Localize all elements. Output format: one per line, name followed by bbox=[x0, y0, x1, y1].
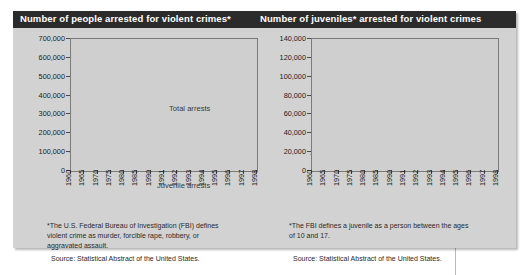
figure-card: Number of people arrested for violent cr… bbox=[13, 11, 516, 248]
r-x-tick-label: 1993 bbox=[425, 170, 434, 186]
r-x-tick-label: 1985 bbox=[371, 170, 380, 186]
l-y-tick-mark bbox=[66, 113, 70, 114]
r-x-tick-label: 1997 bbox=[478, 170, 487, 186]
l-x-tick-label: 1997 bbox=[237, 170, 246, 186]
r-x-tick-label: 1991 bbox=[398, 170, 407, 186]
l-x-tick-label: 1965 bbox=[77, 170, 86, 186]
l-y-tick-label: 100,000 bbox=[25, 147, 65, 156]
l-x-tick-label: 1995 bbox=[210, 170, 219, 186]
r-y-tick-label: 120,000 bbox=[266, 53, 306, 62]
r-x-tick-label: 1980 bbox=[358, 170, 367, 186]
r-y-tick-mark bbox=[307, 132, 311, 133]
l-y-tick-mark bbox=[66, 132, 70, 133]
r-y-tick-label: 60,000 bbox=[266, 109, 306, 118]
l-x-tick-label: 1975 bbox=[104, 170, 113, 186]
r-x-tick-label: 1975 bbox=[345, 170, 354, 186]
left-series-label-total: Total arrests bbox=[169, 104, 210, 113]
r-y-tick-mark bbox=[307, 57, 311, 58]
l-y-tick-label: 600,000 bbox=[25, 53, 65, 62]
r-y-tick-label: 100,000 bbox=[266, 72, 306, 81]
l-y-tick-label: 500,000 bbox=[25, 72, 65, 81]
r-x-tick-label: 1994 bbox=[438, 170, 447, 186]
l-y-tick-label: 400,000 bbox=[25, 91, 65, 100]
r-x-tick-label: 1960 bbox=[305, 170, 314, 186]
left-source: Source: Statistical Abstract of the Unit… bbox=[51, 255, 200, 262]
l-y-tick-mark bbox=[66, 95, 70, 96]
l-y-tick-label: 200,000 bbox=[25, 128, 65, 137]
r-x-tick-label: 1970 bbox=[332, 170, 341, 186]
r-y-tick-label: 0 bbox=[266, 166, 306, 175]
right-source: Source: Statistical Abstract of the Unit… bbox=[293, 255, 442, 262]
l-x-tick-label: 1998 bbox=[250, 170, 259, 186]
l-y-tick-label: 0 bbox=[25, 166, 65, 175]
right-footnote: *The FBI defines a juvenile as a person … bbox=[289, 221, 504, 241]
page-fold-line bbox=[455, 248, 456, 275]
r-y-tick-mark bbox=[307, 151, 311, 152]
r-y-tick-label: 40,000 bbox=[266, 128, 306, 137]
left-series-label-juvenile: Juvenile arrests bbox=[157, 181, 210, 190]
l-y-tick-label: 700,000 bbox=[25, 34, 65, 43]
r-x-tick-label: 1965 bbox=[318, 170, 327, 186]
left-footnote: *The U.S. Federal Bureau of Investigatio… bbox=[47, 221, 257, 251]
r-y-tick-mark bbox=[307, 76, 311, 77]
l-y-tick-mark bbox=[66, 151, 70, 152]
left-plot-frame bbox=[70, 38, 258, 172]
right-chart: 020,00040,00060,00080,000100,000120,0001… bbox=[261, 28, 504, 174]
l-x-tick-label: 1980 bbox=[117, 170, 126, 186]
l-x-tick-label: 1970 bbox=[91, 170, 100, 186]
r-x-tick-label: 1990 bbox=[385, 170, 394, 186]
r-y-tick-label: 80,000 bbox=[266, 91, 306, 100]
left-panel-title: Number of people arrested for violent cr… bbox=[20, 13, 231, 24]
l-y-tick-mark bbox=[66, 38, 70, 39]
r-y-tick-mark bbox=[307, 38, 311, 39]
left-chart: 0100,000200,000300,000400,000500,000600,… bbox=[17, 28, 260, 174]
r-y-tick-mark bbox=[307, 113, 311, 114]
r-x-tick-label: 1996 bbox=[464, 170, 473, 186]
left-panel: 0100,000200,000300,000400,000500,000600,… bbox=[17, 28, 260, 248]
r-x-tick-label: 1992 bbox=[411, 170, 420, 186]
r-y-tick-mark bbox=[307, 95, 311, 96]
right-panel: 020,00040,00060,00080,000100,000120,0001… bbox=[261, 28, 504, 248]
l-x-tick-label: 1996 bbox=[223, 170, 232, 186]
l-y-tick-mark bbox=[66, 57, 70, 58]
r-y-tick-label: 140,000 bbox=[266, 34, 306, 43]
r-x-tick-label: 1998 bbox=[491, 170, 500, 186]
l-x-tick-label: 1960 bbox=[64, 170, 73, 186]
r-x-tick-label: 1995 bbox=[451, 170, 460, 186]
l-y-tick-label: 300,000 bbox=[25, 109, 65, 118]
right-plot-frame bbox=[311, 38, 499, 172]
l-x-tick-label: 1990 bbox=[144, 170, 153, 186]
l-y-tick-mark bbox=[66, 76, 70, 77]
r-y-tick-label: 20,000 bbox=[266, 147, 306, 156]
l-x-tick-label: 1985 bbox=[130, 170, 139, 186]
right-panel-title: Number of juveniles* arrested for violen… bbox=[260, 13, 481, 24]
